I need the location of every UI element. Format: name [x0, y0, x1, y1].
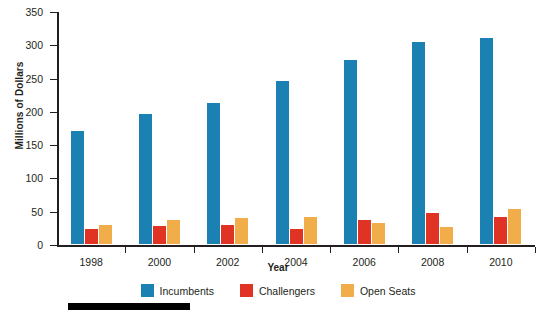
- legend-item[interactable]: Challengers: [240, 284, 315, 297]
- x-tick: [398, 247, 399, 253]
- y-tick: [50, 12, 57, 13]
- bar: [290, 229, 303, 244]
- bar: [372, 223, 385, 244]
- bar: [508, 209, 521, 244]
- y-axis-line: [57, 12, 59, 246]
- y-axis-title: Millions of Dollars: [14, 41, 25, 171]
- x-tick: [330, 247, 331, 253]
- bar: [304, 217, 317, 244]
- legend-swatch-icon: [341, 284, 354, 297]
- legend-label: Open Seats: [360, 285, 415, 297]
- y-tick-label: 200: [25, 106, 43, 118]
- legend-item[interactable]: Incumbents: [141, 284, 214, 297]
- x-axis-line: [57, 245, 535, 247]
- x-tick: [125, 247, 126, 253]
- bar: [167, 220, 180, 244]
- y-tick: [50, 45, 57, 46]
- y-tick: [50, 212, 57, 213]
- y-tick: [50, 79, 57, 80]
- bar: [344, 60, 357, 244]
- bar: [85, 229, 98, 244]
- x-axis-title: Year: [0, 262, 556, 273]
- x-tick: [535, 247, 536, 253]
- bar: [99, 225, 112, 244]
- y-tick: [50, 145, 57, 146]
- bar: [426, 213, 439, 244]
- legend-label: Challengers: [259, 285, 315, 297]
- y-tick: [50, 112, 57, 113]
- bar: [480, 38, 493, 244]
- bar: [440, 227, 453, 244]
- legend-item[interactable]: Open Seats: [341, 284, 415, 297]
- y-tick-label: 100: [25, 172, 43, 184]
- y-tick: [50, 245, 57, 246]
- y-tick-label: 50: [31, 206, 43, 218]
- bar: [207, 103, 220, 244]
- plot-area: 050100150200250300350: [57, 12, 535, 245]
- legend-swatch-icon: [141, 284, 154, 297]
- bar: [412, 42, 425, 244]
- bar: [153, 226, 166, 244]
- bar: [276, 81, 289, 244]
- bar: [221, 225, 234, 244]
- scale-rule-bar: [68, 303, 190, 310]
- chart-legend: IncumbentsChallengersOpen Seats: [0, 284, 556, 297]
- bar: [139, 114, 152, 244]
- x-tick: [467, 247, 468, 253]
- bar-chart: Millions of Dollars 05010015020025030035…: [0, 0, 556, 314]
- x-tick: [262, 247, 263, 253]
- bar: [358, 220, 371, 244]
- y-tick-label: 150: [25, 139, 43, 151]
- bar: [494, 217, 507, 244]
- y-tick-label: 350: [25, 6, 43, 18]
- bar: [235, 218, 248, 244]
- y-tick: [50, 178, 57, 179]
- y-tick-label: 0: [37, 239, 43, 251]
- legend-label: Incumbents: [160, 285, 214, 297]
- y-tick-label: 300: [25, 39, 43, 51]
- x-tick: [194, 247, 195, 253]
- legend-swatch-icon: [240, 284, 253, 297]
- bar: [71, 131, 84, 244]
- y-tick-label: 250: [25, 73, 43, 85]
